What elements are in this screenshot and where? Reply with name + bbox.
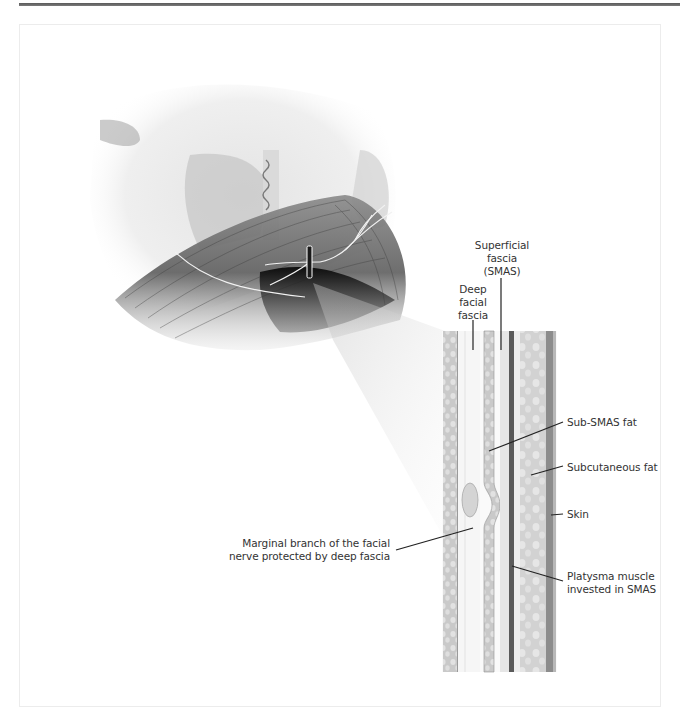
skin-layer <box>546 331 553 672</box>
deep-fat-layer <box>443 331 457 672</box>
label-skin: Skin <box>567 508 589 521</box>
label-line: Superficial <box>474 239 530 252</box>
platysma-layer <box>509 331 514 672</box>
label-platysma: Platysma muscle invested in SMAS <box>567 570 656 596</box>
label-line: (SMAS) <box>474 265 530 278</box>
label-line: fascia <box>451 309 495 322</box>
anatomy-illustration <box>0 0 680 711</box>
label-subcutaneous-fat: Subcutaneous fat <box>567 461 658 474</box>
label-line: Platysma muscle <box>567 570 656 583</box>
label-line: Deep <box>451 283 495 296</box>
label-marginal-branch: Marginal branch of the facial nerve prot… <box>222 537 390 563</box>
label-deep-facial-fascia: Deep facial fascia <box>451 283 495 322</box>
cross-section-marker <box>307 246 312 278</box>
label-line: invested in SMAS <box>567 583 656 596</box>
subcutaneous-fat-layer <box>520 331 546 672</box>
label-line: nerve protected by deep fascia <box>222 550 390 563</box>
label-sub-smas-fat: Sub-SMAS fat <box>567 416 637 429</box>
label-line: Marginal branch of the facial <box>222 537 390 550</box>
label-superficial-fascia: Superficial fascia (SMAS) <box>474 239 530 278</box>
marginal-nerve-cross-section <box>462 483 478 517</box>
smas-layer <box>500 331 509 672</box>
label-line: fascia <box>474 252 530 265</box>
label-line: facial <box>451 296 495 309</box>
projection-cone <box>313 283 445 540</box>
tissue-cross-section <box>442 331 557 672</box>
